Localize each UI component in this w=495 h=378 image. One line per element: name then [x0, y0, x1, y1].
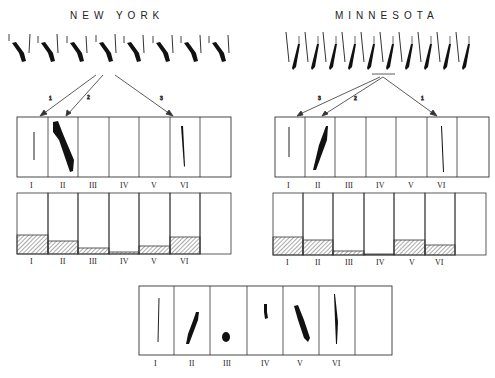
minnesota-specimen-strip	[275, 117, 489, 177]
svg-text:VI: VI	[332, 359, 341, 368]
new-york-specimen-row	[9, 34, 229, 62]
svg-text:VI: VI	[435, 258, 444, 267]
svg-text:IV: IV	[376, 181, 385, 190]
svg-text:I: I	[287, 181, 290, 190]
svg-text:III: III	[223, 359, 231, 368]
minnesota-histogram-labels: I II III IV V VI	[286, 258, 444, 267]
svg-text:IV: IV	[376, 258, 385, 267]
svg-text:VI: VI	[437, 181, 446, 190]
svg-text:V: V	[297, 359, 303, 368]
svg-text:3: 3	[318, 95, 321, 101]
minnesota-strip-labels: I II III IV V VI	[287, 181, 446, 190]
new-york-arrows: 1 2 3	[40, 75, 173, 116]
svg-text:VI: VI	[180, 257, 189, 266]
svg-text:I: I	[30, 257, 33, 266]
svg-text:III: III	[89, 181, 97, 190]
svg-text:III: III	[345, 181, 353, 190]
svg-text:II: II	[189, 359, 195, 368]
svg-text:V: V	[408, 181, 414, 190]
svg-text:V: V	[409, 258, 415, 267]
bottom-specimen-strip	[139, 286, 392, 355]
new-york-histogram	[17, 193, 231, 254]
minnesota-histogram	[273, 193, 486, 255]
svg-text:II: II	[315, 181, 321, 190]
svg-text:IV: IV	[261, 359, 270, 368]
svg-text:2: 2	[87, 94, 90, 100]
svg-text:I: I	[30, 181, 33, 190]
svg-text:1: 1	[421, 95, 424, 101]
svg-text:1: 1	[49, 95, 52, 101]
minnesota-specimen-row	[286, 32, 470, 70]
new-york-specimen-strip	[17, 117, 231, 177]
svg-text:V: V	[151, 181, 157, 190]
svg-text:I: I	[286, 258, 289, 267]
minnesota-arrows: 3 2 1	[297, 74, 437, 116]
bottom-strip-labels: I II III IV V VI	[154, 359, 341, 368]
new-york-histogram-labels: I II III IV V VI	[30, 257, 189, 266]
svg-text:I: I	[154, 359, 157, 368]
new-york-strip-labels: I II III IV V VI	[30, 181, 189, 190]
svg-text:III: III	[89, 257, 97, 266]
svg-text:VI: VI	[180, 181, 189, 190]
svg-text:2: 2	[354, 95, 357, 101]
svg-text:II: II	[60, 181, 66, 190]
svg-text:3: 3	[160, 95, 163, 101]
svg-text:V: V	[151, 257, 157, 266]
svg-text:IV: IV	[120, 257, 129, 266]
diagram-canvas: 1 2 3 I II III IV V VI	[0, 0, 495, 378]
svg-text:II: II	[315, 258, 321, 267]
svg-text:II: II	[60, 257, 66, 266]
svg-text:III: III	[345, 258, 353, 267]
svg-text:IV: IV	[120, 181, 129, 190]
